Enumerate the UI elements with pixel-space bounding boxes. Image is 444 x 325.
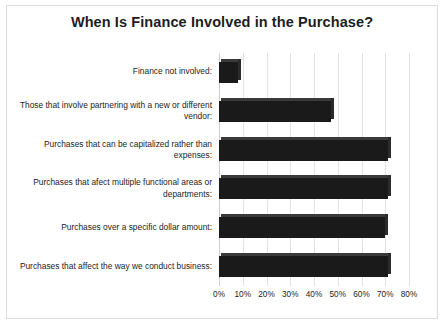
bar-row: [219, 101, 409, 122]
bar-row: [219, 62, 409, 83]
category-label: Purchases that can be capitalized rather…: [6, 139, 212, 162]
plot-area: [219, 53, 409, 286]
gridline-60: [362, 53, 363, 286]
category-label: Those that involve partnering with a new…: [6, 100, 212, 123]
gridline-50: [338, 53, 339, 286]
category-label: Finance not involved:: [6, 66, 212, 78]
x-tick-80: 80%: [394, 290, 424, 299]
category-label: Purchases that affect the way we conduct…: [6, 261, 212, 273]
chart-page: When Is Finance Involved in the Purchase…: [0, 0, 444, 325]
bar-series-value: [219, 256, 388, 277]
bar-series-value: [219, 140, 388, 161]
bar-row: [219, 140, 409, 161]
bar-row: [219, 256, 409, 277]
gridline-10: [243, 53, 244, 286]
category-label: Purchases that afect multiple functional…: [6, 177, 212, 200]
bar-row: [219, 178, 409, 199]
gridline-70: [385, 53, 386, 286]
gridline-80: [409, 53, 410, 286]
bar-series-value: [219, 62, 238, 83]
page-title: When Is Finance Involved in the Purchase…: [0, 14, 444, 30]
bar-series-value: [219, 101, 331, 122]
x-axis-tick-labels: 0%10%20%30%40%50%60%70%80%: [219, 290, 409, 304]
gridline-20: [267, 53, 268, 286]
bar-series-value: [219, 178, 388, 199]
gridline-40: [314, 53, 315, 286]
bar-series-value: [219, 217, 385, 238]
category-label: Purchases over a specific dollar amount:: [6, 222, 212, 234]
gridline-30: [290, 53, 291, 286]
bar-row: [219, 217, 409, 238]
gridline-0: [219, 53, 220, 286]
